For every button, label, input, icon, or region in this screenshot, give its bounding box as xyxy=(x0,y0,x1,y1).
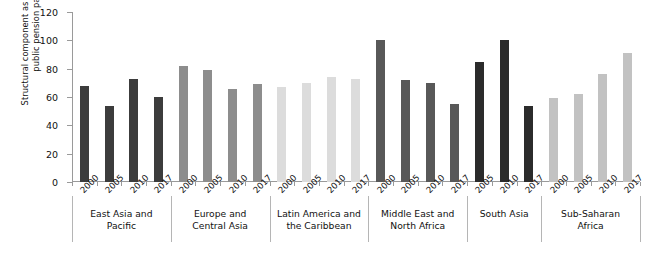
y-axis-title: Structural component as a percentage of … xyxy=(20,0,42,112)
bar[interactable] xyxy=(524,106,533,183)
bar-slot xyxy=(450,12,459,182)
bar[interactable] xyxy=(623,53,632,182)
bar[interactable] xyxy=(327,77,336,182)
bar-slot xyxy=(129,12,138,182)
bar-slot xyxy=(253,12,262,182)
bar-slot xyxy=(574,12,583,182)
y-axis-title-wrap: Structural component as a percentage of … xyxy=(0,0,34,190)
bar-group xyxy=(368,12,467,182)
bar[interactable] xyxy=(277,87,286,182)
bar-slot xyxy=(475,12,484,182)
bar[interactable] xyxy=(401,80,410,182)
bar-slot xyxy=(426,12,435,182)
group-name-line: Middle East and xyxy=(368,208,467,220)
bar[interactable] xyxy=(105,106,114,183)
group-name-line: Central Asia xyxy=(171,220,270,232)
group-name-line: Europe and xyxy=(171,208,270,220)
bar-slot xyxy=(277,12,286,182)
bar-slot xyxy=(179,12,188,182)
bar[interactable] xyxy=(598,74,607,182)
plot-area: 020406080100120 xyxy=(72,12,640,182)
bar-slot xyxy=(203,12,212,182)
bar-group xyxy=(467,12,541,182)
group-name-line: Latin America and xyxy=(270,208,369,220)
bar-slot xyxy=(351,12,360,182)
bar[interactable] xyxy=(475,62,484,182)
bar-slot xyxy=(524,12,533,182)
group-name-line: South Asia xyxy=(467,208,541,220)
group-name-line: the Caribbean xyxy=(270,220,369,232)
bar[interactable] xyxy=(302,83,311,182)
bar[interactable] xyxy=(500,40,509,182)
bar-slot xyxy=(376,12,385,182)
y-tick-label: 80 xyxy=(46,63,58,74)
bar[interactable] xyxy=(426,83,435,182)
group-name: Middle East andNorth Africa xyxy=(368,208,467,231)
group-name-line: East Asia and xyxy=(72,208,171,220)
y-tick-label: 40 xyxy=(46,120,58,131)
bar-slot xyxy=(401,12,410,182)
bar[interactable] xyxy=(154,97,163,182)
bar[interactable] xyxy=(80,86,89,182)
group-separator xyxy=(640,196,641,242)
bar[interactable] xyxy=(129,79,138,182)
group-name: Europe andCentral Asia xyxy=(171,208,270,231)
group-name: Latin America andthe Caribbean xyxy=(270,208,369,231)
group-name: Sub-SaharanAfrica xyxy=(541,208,640,231)
bar[interactable] xyxy=(376,40,385,182)
bar-groups xyxy=(72,12,640,182)
bar[interactable] xyxy=(203,70,212,182)
bar-group xyxy=(171,12,270,182)
bar[interactable] xyxy=(351,79,360,182)
bar[interactable] xyxy=(253,84,262,182)
group-name: East Asia andPacific xyxy=(72,208,171,231)
bar-slot xyxy=(549,12,558,182)
group-name-labels: East Asia andPacificEurope andCentral As… xyxy=(72,208,640,248)
bar[interactable] xyxy=(450,104,459,182)
y-tick-label: 100 xyxy=(40,35,58,46)
bar[interactable] xyxy=(228,89,237,183)
bar-chart: Structural component as a percentage of … xyxy=(0,0,646,253)
bar-slot xyxy=(302,12,311,182)
bar-slot xyxy=(105,12,114,182)
y-tick-label: 120 xyxy=(40,7,58,18)
bar-slot xyxy=(623,12,632,182)
bar-slot xyxy=(154,12,163,182)
bar-group xyxy=(541,12,640,182)
group-name-line: Sub-Saharan xyxy=(541,208,640,220)
group-name-line: Pacific xyxy=(72,220,171,232)
bar-slot xyxy=(598,12,607,182)
bar[interactable] xyxy=(179,66,188,182)
bar-group xyxy=(270,12,369,182)
bar-slot xyxy=(500,12,509,182)
group-name-line: North Africa xyxy=(368,220,467,232)
group-name-line: Africa xyxy=(541,220,640,232)
bar-slot xyxy=(80,12,89,182)
group-name: South Asia xyxy=(467,208,541,220)
y-tick-label: 60 xyxy=(46,92,58,103)
y-tick-label: 20 xyxy=(46,148,58,159)
bar-group xyxy=(72,12,171,182)
bar-slot xyxy=(228,12,237,182)
y-tick-label: 0 xyxy=(52,177,58,188)
bar[interactable] xyxy=(574,94,583,182)
bar-slot xyxy=(327,12,336,182)
bar[interactable] xyxy=(549,98,558,182)
